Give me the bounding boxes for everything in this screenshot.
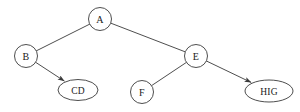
node-label-b: B: [23, 51, 30, 62]
tree-edge-b-cd: [36, 62, 64, 81]
tree-node-a[interactable]: A: [89, 8, 112, 31]
tree-diagram-canvas: ABECDFHIG: [0, 0, 300, 112]
tree-edge-e-hig: [206, 61, 250, 82]
tree-node-cd[interactable]: CD: [58, 80, 98, 101]
tree-edge-e-f: [152, 62, 187, 85]
node-label-a: A: [96, 14, 104, 25]
node-label-f: F: [139, 87, 145, 98]
node-label-hig: HIG: [260, 87, 278, 97]
tree-node-hig[interactable]: HIG: [245, 80, 293, 102]
tree-node-e[interactable]: E: [185, 45, 208, 68]
tree-node-b[interactable]: B: [15, 45, 38, 68]
nodes-layer: ABECDFHIG: [15, 8, 294, 104]
node-label-cd: CD: [71, 86, 85, 96]
tree-edge-a-b: [36, 24, 89, 51]
node-label-e: E: [193, 51, 199, 62]
tree-edge-a-e: [111, 23, 186, 52]
tree-node-f[interactable]: F: [131, 81, 154, 104]
tree-diagram: ABECDFHIG: [0, 0, 300, 112]
edges-layer: [36, 23, 251, 85]
